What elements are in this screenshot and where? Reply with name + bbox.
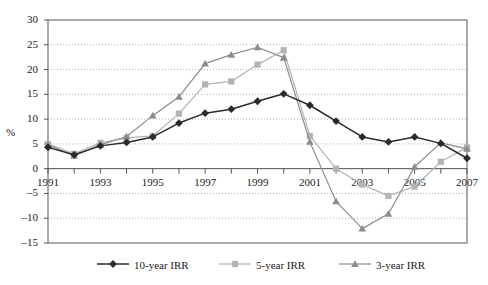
legend-label-10-year-irr: 10-year IRR <box>134 259 189 271</box>
legend-label-5-year-irr: 5-year IRR <box>256 259 305 271</box>
data-point <box>228 78 234 84</box>
data-point <box>385 210 393 217</box>
data-point <box>149 112 157 119</box>
data-point <box>359 181 365 187</box>
data-point <box>438 159 444 165</box>
data-point <box>202 81 208 87</box>
data-point <box>254 62 260 68</box>
legend-item-5-year-irr[interactable]: 5-year IRR <box>218 258 305 272</box>
legend-label-3-year-irr: 3-year IRR <box>376 259 425 271</box>
x-axis-ticks <box>48 169 467 174</box>
data-point <box>176 111 182 117</box>
data-point <box>385 138 393 146</box>
data-point <box>280 90 288 98</box>
data-point <box>411 133 419 141</box>
data-point <box>463 154 471 162</box>
data-point <box>175 119 183 127</box>
data-point <box>332 117 340 125</box>
data-point <box>227 105 235 113</box>
data-point <box>201 109 209 117</box>
data-point <box>306 101 314 109</box>
gridlines <box>48 45 467 218</box>
legend-swatch-3-year-irr <box>338 258 372 272</box>
data-point <box>358 133 366 141</box>
data-point <box>333 166 339 172</box>
chart-container: % 302520151050–5–10–15 19911993199519971… <box>0 0 488 285</box>
legend-item-10-year-irr[interactable]: 10-year IRR <box>96 258 189 272</box>
data-point <box>332 198 340 205</box>
data-series-layer <box>44 43 471 231</box>
data-point <box>412 183 418 189</box>
data-point <box>254 97 262 105</box>
data-point <box>254 43 262 50</box>
series-3-year-irr <box>44 43 471 231</box>
plot-area <box>0 0 488 285</box>
series-10-year-irr <box>44 90 471 162</box>
legend-item-3-year-irr[interactable]: 3-year IRR <box>338 258 425 272</box>
legend-swatch-10-year-irr <box>96 258 130 272</box>
legend-swatch-5-year-irr <box>218 258 252 272</box>
data-point <box>281 47 287 53</box>
data-point <box>385 193 391 199</box>
chart-legend: 10-year IRR 5-year IRR 3-year IRR <box>0 256 488 278</box>
plot-frame <box>48 20 467 243</box>
y-axis-ticks <box>44 20 48 243</box>
